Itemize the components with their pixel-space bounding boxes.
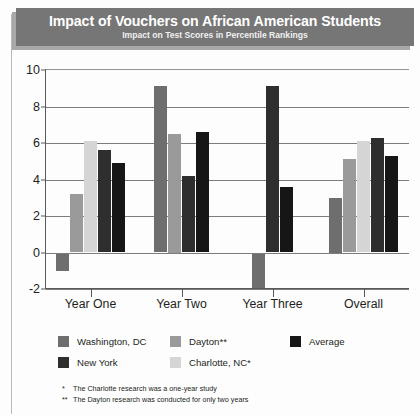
bar: [357, 141, 370, 252]
bar: [98, 150, 111, 252]
y-tick-label: 8: [33, 100, 40, 114]
y-tick-label: 6: [33, 136, 40, 150]
y-tick-mark: [41, 216, 46, 217]
legend-item: Washington, DC: [58, 332, 147, 350]
y-tick-mark: [41, 106, 46, 107]
bar: [266, 86, 279, 252]
bar: [252, 253, 265, 290]
y-tick-label: 10: [26, 63, 40, 77]
bar: [70, 194, 83, 252]
bar: [182, 176, 195, 253]
legend-label: Washington, DC: [77, 336, 147, 347]
bar: [154, 86, 167, 252]
legend-label: New York: [77, 357, 118, 368]
footnote-line: **The Dayton research was conducted for …: [62, 394, 248, 405]
legend-swatch-icon: [170, 336, 181, 347]
x-tick-mark: [273, 288, 274, 297]
bar: [112, 163, 125, 252]
bar: [371, 138, 384, 253]
footnote-text: The Charlotte research was a one-year st…: [73, 384, 217, 393]
x-axis-line: [45, 288, 409, 289]
chart-footnotes: *The Charlotte research was a one-year s…: [62, 383, 248, 405]
footnote-marker: *: [62, 383, 73, 394]
footnote-line: *The Charlotte research was a one-year s…: [62, 383, 248, 394]
x-tick-label-overall: Overall: [344, 297, 383, 311]
x-tick-mark: [91, 288, 92, 297]
plot-frame: -20246810: [45, 69, 409, 288]
bar: [385, 156, 398, 253]
legend-label: Average: [309, 336, 345, 347]
y-tick-label: 0: [33, 246, 40, 260]
x-tick-label-year-one: Year One: [65, 297, 117, 311]
legend-item: Charlotte, NC*: [170, 353, 251, 371]
legend-label: Charlotte, NC*: [189, 357, 251, 368]
x-tick-label-year-three: Year Three: [242, 297, 302, 311]
legend-item: Average: [290, 332, 345, 350]
x-tick-mark: [182, 288, 183, 297]
y-tick-label: -2: [29, 282, 40, 296]
zero-baseline: [46, 253, 409, 254]
legend-swatch-icon: [170, 357, 181, 368]
y-tick-mark: [41, 143, 46, 144]
footnote-text: The Dayton research was conducted for on…: [73, 395, 248, 404]
legend-swatch-icon: [290, 336, 301, 347]
bar: [168, 134, 181, 253]
bar: [280, 187, 293, 253]
footnote-marker: **: [62, 394, 73, 405]
y-tick-label: 2: [33, 209, 40, 223]
chart-page: Impact of Vouchers on African American S…: [0, 0, 420, 416]
x-tick-mark: [364, 288, 365, 297]
bar: [343, 159, 356, 252]
x-tick-label-year-two: Year Two: [156, 297, 207, 311]
y-gridline: [46, 107, 409, 108]
legend-swatch-icon: [58, 357, 69, 368]
legend-item: Dayton**: [170, 332, 227, 350]
bar: [196, 132, 209, 252]
bar: [84, 141, 97, 252]
bar: [329, 198, 342, 253]
y-tick-label: 4: [33, 173, 40, 187]
bar: [56, 253, 69, 271]
legend-swatch-icon: [58, 336, 69, 347]
legend-label: Dayton**: [189, 336, 227, 347]
y-tick-mark: [41, 179, 46, 180]
y-gridline: [46, 143, 409, 144]
legend-item: New York: [58, 353, 118, 371]
y-tick-mark: [41, 70, 46, 71]
